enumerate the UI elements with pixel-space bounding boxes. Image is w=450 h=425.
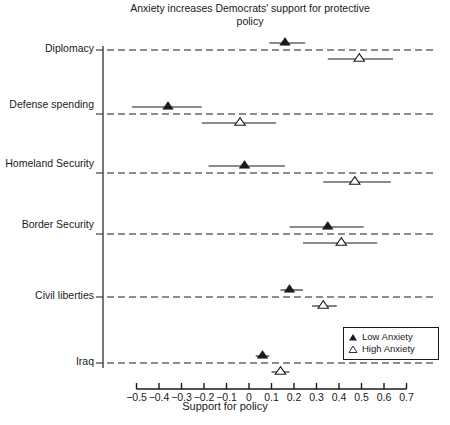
open-triangle-marker[interactable] <box>235 118 245 126</box>
chart-title: Anxiety increases Democrats' support for… <box>120 2 380 28</box>
y-axis-category-label: Border Security <box>2 218 94 231</box>
open-triangle-marker[interactable] <box>318 301 328 309</box>
filled-triangle-marker[interactable] <box>163 102 173 110</box>
x-axis-tick-label: 0.7 <box>391 391 423 403</box>
filled-triangle-marker[interactable] <box>257 351 267 359</box>
chart-legend: Low Anxiety High Anxiety <box>343 327 439 360</box>
y-axis-category-label: Homeland Security <box>2 157 94 170</box>
filled-triangle-icon <box>348 332 358 342</box>
chart-figure: Anxiety increases Democrats' support for… <box>0 0 450 425</box>
legend-item-high-anxiety[interactable]: High Anxiety <box>348 343 434 355</box>
open-triangle-icon <box>348 344 358 354</box>
open-triangle-marker[interactable] <box>275 367 285 375</box>
filled-triangle-marker[interactable] <box>280 38 290 46</box>
open-triangle-marker[interactable] <box>336 238 346 246</box>
legend-item-label: Low Anxiety <box>362 331 413 343</box>
y-axis-category-label: Defense spending <box>2 98 94 111</box>
series-low-anxiety <box>132 38 364 359</box>
y-axis-category-label: Diplomacy <box>2 42 94 55</box>
filled-triangle-marker[interactable] <box>284 285 294 293</box>
open-triangle-marker[interactable] <box>350 177 360 185</box>
y-axis-category-label: Iraq <box>2 355 94 368</box>
filled-triangle-marker[interactable] <box>323 222 333 230</box>
legend-item-low-anxiety[interactable]: Low Anxiety <box>348 331 434 343</box>
y-axis-category-label: Civil liberties <box>2 289 94 302</box>
open-triangle-marker[interactable] <box>354 54 364 62</box>
filled-triangle-marker[interactable] <box>239 161 249 169</box>
legend-item-label: High Anxiety <box>362 343 415 355</box>
